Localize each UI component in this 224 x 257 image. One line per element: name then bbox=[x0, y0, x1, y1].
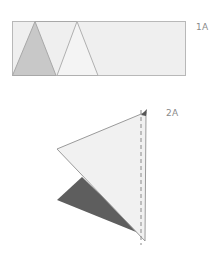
step-label-1a: 1A bbox=[196, 22, 208, 32]
light-triangle bbox=[57, 112, 146, 241]
step-1a-figure bbox=[13, 22, 186, 76]
step-2a-figure bbox=[57, 109, 147, 245]
diagram-canvas bbox=[0, 0, 224, 257]
corner-tab bbox=[141, 109, 147, 116]
step-label-2a: 2A bbox=[166, 108, 178, 118]
